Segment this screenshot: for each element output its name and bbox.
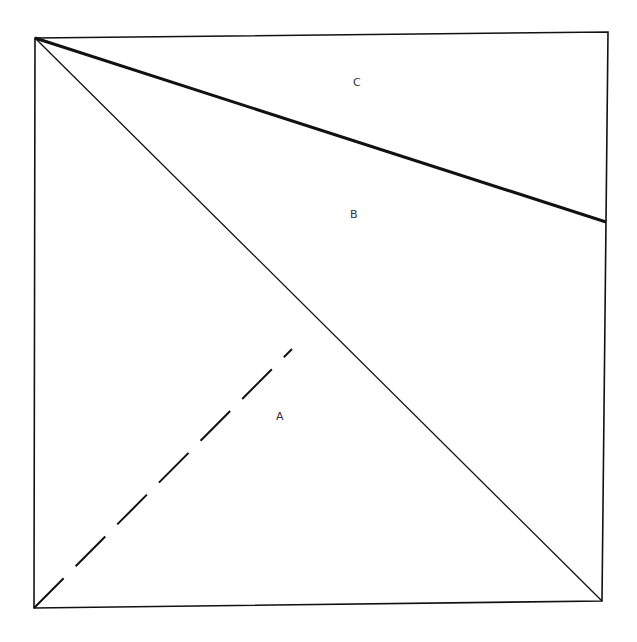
label-a: A xyxy=(276,410,284,423)
diagonal-line xyxy=(35,38,602,601)
label-b: B xyxy=(350,208,358,221)
dashed-line xyxy=(34,349,292,608)
label-c: C xyxy=(353,76,361,89)
thick-line xyxy=(35,38,606,222)
square-partition-diagram: A B C xyxy=(0,0,637,642)
